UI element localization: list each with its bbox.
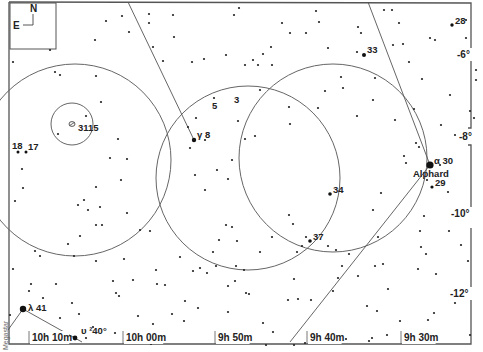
star-dot — [368, 340, 370, 342]
star-dot — [270, 46, 272, 48]
star-dot — [427, 319, 429, 321]
star-dot — [337, 277, 339, 279]
star-dot — [460, 244, 462, 246]
star-dot — [162, 60, 164, 62]
dec-label: -10° — [451, 208, 469, 219]
star-dot — [42, 297, 44, 299]
star-dot — [289, 123, 291, 125]
star-dot — [447, 191, 449, 193]
star-dot — [67, 243, 69, 245]
star-dot — [434, 39, 436, 41]
star-dot — [342, 87, 344, 89]
star-dot — [402, 43, 404, 45]
star-dot — [415, 142, 417, 144]
star-label: 3 — [234, 94, 239, 105]
galaxy-ngc3115-icon — [69, 122, 75, 127]
star-dot — [85, 115, 87, 117]
star-dot — [376, 310, 378, 312]
star-dot — [372, 99, 374, 101]
star-dot — [372, 209, 374, 211]
star-dot — [327, 245, 329, 247]
star-dot — [271, 64, 273, 66]
star-dot — [55, 283, 57, 285]
star-dot — [327, 47, 329, 49]
star-dot — [22, 187, 24, 189]
star-dot — [348, 253, 350, 255]
star-dot — [243, 269, 245, 271]
star-dot — [156, 283, 158, 285]
named-star — [73, 336, 78, 341]
star-dot — [332, 290, 334, 292]
star-dot — [356, 115, 358, 117]
star-dot — [262, 322, 264, 324]
constellation-line — [368, 2, 430, 165]
dec-label: -12° — [450, 288, 468, 299]
star-dot — [57, 133, 59, 135]
star-dot — [380, 192, 382, 194]
star-dot — [85, 337, 87, 339]
star-dot — [218, 239, 220, 241]
star-dot — [95, 260, 97, 262]
star-dot — [14, 200, 16, 202]
star-dot — [288, 214, 290, 216]
ra-label: 9h 50m — [218, 332, 253, 343]
star-dot — [421, 78, 423, 80]
star-dot — [417, 268, 419, 270]
fov-circle — [156, 86, 340, 270]
field-of-view-circles — [0, 64, 427, 270]
star-chart: N E 28333115181753γ 8α 30Alphard293437λ … — [0, 0, 483, 352]
star-label: 29 — [435, 177, 446, 188]
star-dot — [192, 270, 194, 272]
named-star — [192, 138, 196, 142]
star-dot — [71, 302, 73, 304]
star-label: λ 41 — [28, 302, 47, 313]
star-dot — [244, 64, 246, 66]
star-dot — [117, 138, 119, 140]
star-dot — [204, 189, 206, 191]
star-dot — [79, 235, 81, 237]
star-dot — [467, 260, 469, 262]
star-dot — [357, 26, 359, 28]
star-dot — [12, 268, 14, 270]
star-dot — [95, 186, 97, 188]
star-label: α 30 — [434, 155, 453, 166]
star-dot — [238, 7, 240, 9]
ra-label: 10h 00m — [126, 332, 166, 343]
star-dot — [403, 155, 405, 157]
star-dot — [227, 178, 229, 180]
star-dot — [121, 15, 123, 17]
star-label: υ ²40° — [81, 325, 107, 336]
star-dot — [87, 209, 89, 211]
star-dot — [435, 273, 437, 275]
star-dot — [301, 245, 303, 247]
star-dot — [449, 94, 451, 96]
star-dot — [272, 331, 274, 333]
star-dot — [465, 37, 467, 39]
star-dot — [59, 317, 61, 319]
star-label: 33 — [367, 44, 378, 55]
star-dot — [152, 323, 154, 325]
star-dot — [386, 334, 388, 336]
star-dot — [227, 311, 229, 313]
star-dot — [408, 61, 410, 63]
star-dot — [304, 342, 306, 344]
star-dot — [335, 249, 337, 251]
star-dot — [293, 278, 295, 280]
star-dot — [83, 199, 85, 201]
star-dot — [171, 313, 173, 315]
star-dot — [433, 312, 435, 314]
star-dot — [448, 230, 450, 232]
star-dot — [120, 179, 122, 181]
star-dot — [148, 13, 150, 15]
star-dot — [475, 69, 477, 71]
constellation-line — [128, 2, 194, 140]
star-dot — [419, 230, 421, 232]
star-dot — [341, 265, 343, 267]
star-dot — [149, 230, 151, 232]
star-dot — [289, 32, 291, 34]
star-label: 37 — [313, 231, 324, 242]
named-star — [328, 192, 332, 196]
star-dot — [225, 54, 227, 56]
star-dot — [233, 14, 235, 16]
star-dot — [216, 169, 218, 171]
